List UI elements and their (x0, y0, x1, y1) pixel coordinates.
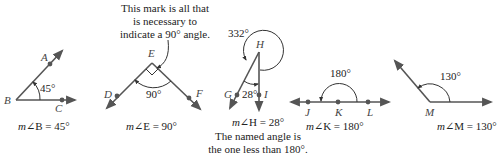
ray-ef (152, 63, 200, 109)
ray-m-upper (395, 61, 430, 102)
arc-332 (243, 30, 283, 70)
label-l: L (366, 106, 373, 118)
label-f: F (195, 87, 203, 99)
angle-value-28: 28° (242, 88, 257, 100)
ray-ed (107, 63, 152, 108)
caption-e: m∠E = 90° (126, 120, 177, 132)
angle-value-332: 332° (228, 27, 249, 39)
label-k: K (334, 106, 343, 118)
figure-angle-h: H G I 28° 332° m∠H = 28° The named angle… (208, 27, 308, 155)
point-l (366, 100, 371, 105)
point-k (336, 100, 341, 105)
label-e: E (147, 47, 155, 59)
point-g (235, 93, 240, 98)
note-line-1: This mark is all that (121, 2, 209, 14)
figure-angle-k: J K L 180° m∠K = 180° (291, 67, 389, 132)
label-i: I (263, 88, 269, 100)
note-pointer-arrow (157, 40, 168, 68)
point-j (306, 100, 311, 105)
angle-value-180: 180° (330, 67, 351, 79)
angle-diagram: A B C 45° m∠B = 45° E D F 90° This mark … (0, 0, 499, 159)
figure-angle-e: E D F 90° This mark is all that is neces… (103, 2, 210, 132)
label-h: H (255, 38, 265, 50)
point-f (187, 96, 192, 101)
label-c: C (55, 102, 63, 114)
point-d (115, 94, 120, 99)
caption-b: m∠B = 45° (18, 120, 70, 132)
label-a: A (40, 51, 48, 63)
point-a (48, 62, 53, 67)
caption-m: m∠M = 130° (437, 120, 497, 132)
figure-angle-m: M 130° m∠M = 130° (395, 61, 497, 132)
figure-angle-b: A B C 45° m∠B = 45° (4, 51, 75, 132)
angle-value-45: 45° (40, 82, 55, 94)
caption-h: m∠H = 28° (232, 116, 284, 128)
arc-28 (244, 81, 258, 84)
angle-value-130: 130° (440, 70, 461, 82)
note-named-angle-1: The named angle is (215, 130, 301, 142)
right-angle-mark (146, 69, 158, 75)
label-j: J (305, 106, 311, 118)
arc-45 (33, 82, 40, 100)
arc-90 (135, 80, 171, 88)
label-b: B (4, 94, 11, 106)
label-g: G (224, 88, 232, 100)
note-named-angle-2: the one less than 180°. (208, 143, 308, 155)
label-m: M (424, 106, 435, 118)
note-line-2: is necessary to (133, 15, 198, 27)
arc-180 (321, 84, 357, 102)
angle-value-90: 90° (146, 88, 161, 100)
note-line-3: indicate a 90° angle. (120, 28, 210, 40)
caption-k: m∠K = 180° (306, 120, 364, 132)
label-d: D (103, 88, 112, 100)
